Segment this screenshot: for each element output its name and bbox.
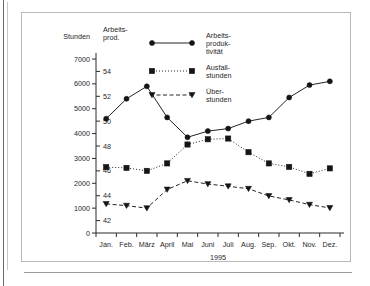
data-point-1-10	[287, 95, 292, 100]
legend-entry-3: Über-stunden	[149, 87, 232, 104]
data-point-1-4	[165, 115, 170, 120]
y-tick-label-right: 52	[103, 92, 111, 101]
y-tick-label-left: 2000	[74, 179, 90, 188]
x-tick-label-6: Juni	[201, 240, 215, 249]
line-chart: 0100020003000400050006000700042444648505…	[22, 13, 352, 263]
legend-entry-1: Arbeits-produk-tivität	[150, 31, 232, 57]
y-tick-label-left: 3000	[74, 154, 90, 163]
legend-marker-right-1	[190, 41, 195, 46]
x-tick-label-12: Dez.	[322, 240, 337, 249]
data-point-1-5	[185, 135, 190, 140]
data-point-3-3	[144, 206, 150, 211]
legend-label-1-line3: tivität	[206, 47, 223, 56]
data-point-1-12	[327, 79, 332, 84]
data-point-2-12	[327, 166, 332, 171]
data-point-2-4	[165, 161, 170, 166]
chart-plot-area: 0100020003000400050006000700042444648505…	[22, 13, 352, 263]
legend-entry-2: Ausfall-stunden	[149, 63, 231, 80]
data-point-1-2	[124, 96, 129, 101]
data-point-1-6	[205, 129, 210, 134]
legend-marker-left-2	[149, 68, 154, 73]
y-tick-label-right: 54	[103, 67, 111, 76]
data-point-2-8	[246, 150, 251, 155]
x-axis-title: 1995	[210, 253, 226, 262]
legend-marker-left-1	[150, 41, 155, 46]
data-point-2-9	[266, 161, 271, 166]
chart-figure-frame: 0100020003000400050006000700042444648505…	[21, 12, 351, 262]
x-tick-label-2: Feb.	[119, 240, 133, 249]
x-tick-label-11: Nov.	[302, 240, 316, 249]
page-left-inner-rule	[7, 2, 8, 270]
x-tick-label-10: Okt.	[283, 240, 296, 249]
legend-marker-right-2	[189, 68, 194, 73]
x-tick-label-1: Jan.	[99, 240, 113, 249]
data-point-1-11	[307, 83, 312, 88]
page-bottom-rule	[24, 272, 352, 273]
data-point-2-11	[307, 171, 312, 176]
x-tick-label-5: Mai	[182, 240, 194, 249]
data-point-1-7	[226, 126, 231, 131]
data-point-2-10	[287, 164, 292, 169]
y-tick-label-left: 7000	[74, 55, 90, 64]
series-line-3	[106, 181, 330, 208]
x-tick-label-8: Aug.	[241, 240, 256, 249]
left-axis-title: Stunden	[63, 32, 90, 41]
series-überstunden	[103, 178, 333, 211]
x-tick-label-3: März	[139, 240, 155, 249]
series-ausfallstunden	[104, 136, 333, 176]
data-point-2-5	[185, 142, 190, 147]
right-axis-title-line2: prod.	[103, 33, 119, 42]
data-point-2-1	[104, 165, 109, 170]
y-tick-label-left: 5000	[74, 104, 90, 113]
y-tick-label-left: 6000	[74, 79, 90, 88]
y-tick-label-left: 0	[86, 229, 90, 238]
x-tick-label-9: Sep.	[261, 240, 276, 249]
page-left-edge-rule	[3, 0, 4, 286]
data-point-2-6	[205, 137, 210, 142]
y-tick-label-right: 44	[103, 191, 111, 200]
data-point-3-12	[327, 205, 333, 210]
x-tick-label-4: April	[160, 240, 175, 249]
y-tick-label-left: 4000	[74, 129, 90, 138]
y-tick-label-right: 48	[103, 142, 111, 151]
legend-label-3-line2: stunden	[206, 95, 232, 104]
data-point-2-3	[144, 168, 149, 173]
y-tick-label-left: 1000	[74, 204, 90, 213]
data-point-2-2	[124, 165, 129, 170]
data-point-1-3	[144, 84, 149, 89]
data-point-1-9	[266, 115, 271, 120]
data-point-2-7	[226, 136, 231, 141]
data-point-1-1	[104, 116, 109, 121]
series-line-2	[106, 139, 330, 174]
legend-label-2-line2: stunden	[206, 71, 232, 80]
y-tick-label-right: 42	[103, 216, 111, 225]
data-point-1-8	[246, 119, 251, 124]
x-tick-label-7: Juli	[223, 240, 234, 249]
